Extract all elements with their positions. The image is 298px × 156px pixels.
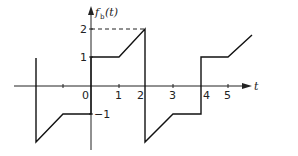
x-tick-label-4: 4	[203, 89, 210, 102]
x-axis-label: t	[254, 80, 259, 93]
x-tick-label-3: 3	[169, 89, 176, 102]
x-tick-label-0: 0	[82, 89, 89, 102]
y-tick-label-2: 2	[80, 23, 87, 36]
waveform-plot: 0 1 2 3 4 5 2 1 −1 t f b (t)	[0, 0, 298, 156]
y-axis-label: f b (t)	[94, 6, 118, 21]
x-tick-label-2: 2	[137, 89, 144, 102]
y-tick-label-1: 1	[80, 51, 87, 64]
y-axis-arrow-icon	[88, 6, 94, 15]
function-argument: (t)	[105, 6, 118, 19]
x-tick-label-1: 1	[115, 89, 122, 102]
y-tick-label-neg1: −1	[94, 108, 110, 121]
x-tick-label-5: 5	[224, 89, 231, 102]
waveform-figure: 0 1 2 3 4 5 2 1 −1 t f b (t)	[0, 0, 298, 156]
x-axis-arrow-icon	[242, 83, 252, 89]
